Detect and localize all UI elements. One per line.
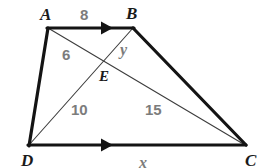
vertex-label-E: E [99,69,109,84]
measure-label-DC: x [139,155,147,168]
edge-AD [29,28,48,146]
parallel-arrow-DC-icon [101,139,113,152]
outline-group [28,28,246,146]
parallel-marks-group [101,22,113,152]
geometry-canvas [0,0,258,168]
measure-label-EC: 15 [145,102,162,117]
diagonal-AC [48,28,245,145]
measure-label-BE: y [120,42,127,58]
geometry-figure: A B C D E 8 y 6 10 15 x [0,0,258,168]
parallel-arrow-AB-icon [101,22,113,35]
measure-label-AE: 6 [62,47,70,62]
measure-label-AB: 8 [80,7,88,22]
vertex-label-C: C [245,152,256,168]
measure-label-DE: 10 [71,102,88,117]
edge-BC [133,28,246,145]
vertex-label-B: B [126,5,137,22]
vertex-label-D: D [21,152,33,168]
vertex-label-A: A [40,6,51,23]
